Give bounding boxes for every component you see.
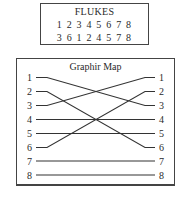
left-pin-label: 5 (27, 128, 32, 139)
right-pin-label: 6 (159, 142, 164, 153)
right-pin-label: 4 (159, 114, 164, 125)
left-pin-label: 1 (27, 72, 32, 83)
right-pin-label: 2 (159, 86, 164, 97)
right-pin-label: 8 (159, 170, 164, 181)
left-pin-label: 2 (27, 86, 32, 97)
graphir-map-diagram: 1234567812345678 (0, 0, 189, 205)
right-pin-label: 5 (159, 128, 164, 139)
left-pin-label: 6 (27, 142, 32, 153)
left-pin-label: 4 (27, 114, 32, 125)
left-pin-label: 8 (27, 170, 32, 181)
right-pin-label: 7 (159, 156, 164, 167)
left-pin-label: 7 (27, 156, 32, 167)
connection-line (36, 78, 155, 106)
left-pin-label: 3 (27, 100, 32, 111)
right-pin-label: 3 (159, 100, 164, 111)
right-pin-label: 1 (159, 72, 164, 83)
